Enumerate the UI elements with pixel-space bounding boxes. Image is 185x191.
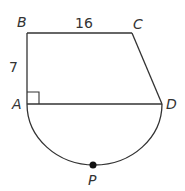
label-b: B [17, 14, 27, 30]
label-p: P [88, 172, 97, 188]
label-c: C [133, 16, 143, 32]
point-p-dot [90, 162, 97, 169]
segment-cd [132, 33, 162, 104]
right-angle-marker [27, 92, 39, 104]
label-a: A [11, 96, 22, 112]
label-d: D [166, 96, 177, 112]
semicircle-arc [27, 104, 162, 165]
length-ab: 7 [9, 59, 18, 75]
length-bc: 16 [75, 15, 93, 31]
geometry-diagram: B C D A P 16 7 [0, 0, 185, 191]
